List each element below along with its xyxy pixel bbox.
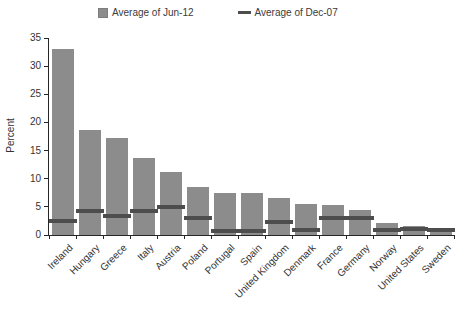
x-axis-tick — [454, 235, 455, 239]
square-icon — [98, 8, 108, 18]
y-axis-tick-label: 35 — [11, 33, 41, 43]
dash-icon — [238, 11, 251, 14]
dash-spain — [238, 229, 266, 233]
legend-label-dec07: Average of Dec-07 — [255, 7, 338, 18]
legend-item-dec07: Average of Dec-07 — [238, 7, 338, 18]
bar-italy — [133, 158, 155, 235]
dash-denmark — [292, 228, 320, 232]
x-axis-label-austria: Austria — [152, 242, 182, 272]
plot-area: 05101520253035IrelandHungaryGreeceItalyA… — [48, 38, 454, 236]
y-axis-tick-label: 0 — [11, 230, 41, 240]
bar-austria — [160, 172, 182, 235]
x-axis-tick — [238, 235, 239, 239]
y-axis-tick — [44, 178, 48, 179]
dash-united-states — [400, 227, 428, 231]
dash-norway — [373, 228, 401, 232]
dash-ireland — [49, 219, 77, 223]
x-axis-tick — [346, 235, 347, 239]
x-axis-tick — [292, 235, 293, 239]
y-axis-tick-label: 20 — [11, 117, 41, 127]
y-axis-tick-label: 15 — [11, 146, 41, 156]
x-axis-tick — [130, 235, 131, 239]
x-axis-tick — [373, 235, 374, 239]
y-axis-tick — [44, 122, 48, 123]
x-axis-tick — [76, 235, 77, 239]
y-axis-tick — [44, 66, 48, 67]
x-axis-tick — [211, 235, 212, 239]
bar-hungary — [79, 130, 101, 235]
y-axis-tick-label: 5 — [11, 202, 41, 212]
x-axis-tick — [319, 235, 320, 239]
y-axis-tick — [44, 38, 48, 39]
bar-united-kingdom — [268, 198, 290, 235]
x-axis-tick — [184, 235, 185, 239]
dash-italy — [130, 209, 158, 213]
x-axis-tick — [400, 235, 401, 239]
dash-austria — [157, 205, 185, 209]
chart-legend: Average of Jun-12 Average of Dec-07 — [98, 7, 338, 18]
y-axis-tick — [44, 150, 48, 151]
y-axis-tick — [44, 206, 48, 207]
y-axis-title: Percent — [5, 86, 16, 186]
dash-sweden — [427, 228, 455, 232]
chart-canvas: Average of Jun-12 Average of Dec-07 Perc… — [0, 0, 458, 313]
bar-germany — [349, 210, 371, 235]
x-axis-tick — [49, 235, 50, 239]
legend-label-jun12: Average of Jun-12 — [112, 7, 194, 18]
dash-united-kingdom — [265, 220, 293, 224]
y-axis-tick-label: 10 — [11, 174, 41, 184]
dash-portugal — [211, 229, 239, 233]
dash-france — [319, 216, 347, 220]
x-axis-tick — [157, 235, 158, 239]
dash-germany — [346, 216, 374, 220]
legend-item-jun12: Average of Jun-12 — [98, 7, 194, 18]
x-axis-tick — [103, 235, 104, 239]
x-axis-tick — [427, 235, 428, 239]
y-axis-tick — [44, 94, 48, 95]
dash-greece — [103, 214, 131, 218]
x-axis-label-italy: Italy — [135, 242, 156, 263]
bar-greece — [106, 138, 128, 235]
dash-hungary — [76, 209, 104, 213]
y-axis-tick — [44, 235, 48, 236]
bar-ireland — [52, 49, 74, 235]
x-axis-tick — [265, 235, 266, 239]
x-axis-label-greece: Greece — [97, 242, 128, 273]
bar-poland — [187, 187, 209, 235]
y-axis-tick-label: 30 — [11, 61, 41, 71]
y-axis-tick-label: 25 — [11, 89, 41, 99]
dash-poland — [184, 216, 212, 220]
